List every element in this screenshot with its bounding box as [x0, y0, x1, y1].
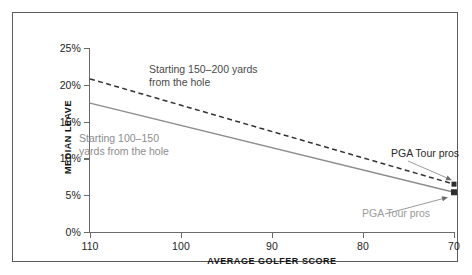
- x-tick-mark: [454, 232, 455, 238]
- x-tick-mark: [90, 232, 91, 238]
- y-tick-label: 20%: [60, 79, 81, 91]
- x-tick-mark: [272, 232, 273, 238]
- endpoint-marker-100-150: [451, 189, 457, 195]
- y-tick-label: 15%: [60, 116, 81, 128]
- callout-arrowhead-lower: [442, 196, 448, 201]
- x-tick-label: 110: [81, 240, 98, 252]
- x-axis-title: AVERAGE GOLFER SCORE: [90, 256, 454, 266]
- x-tick-label: 80: [357, 240, 369, 252]
- y-tick-label: 10%: [60, 152, 81, 164]
- annotation-100-150-yards: Starting 100–150 yards from the hole: [79, 132, 169, 158]
- annotation-pga-tour-pros-lower: PGA Tour pros: [362, 207, 430, 219]
- annotation-pga-tour-pros-upper: PGA Tour pros: [391, 147, 459, 159]
- callout-leader-upper: [408, 161, 447, 178]
- y-tick-label: 5%: [66, 189, 81, 201]
- x-tick-label: 90: [266, 240, 278, 252]
- chart-frame: MEDIAN LEAVE AVERAGE GOLFER SCORE 25% 20…: [12, 12, 458, 262]
- x-tick-label: 70: [448, 240, 460, 252]
- x-tick-mark: [363, 232, 364, 238]
- endpoint-marker-150-200: [452, 182, 457, 187]
- annotation-150-200-yards: Starting 150–200 yards from the hole: [149, 63, 258, 89]
- y-tick-label: 25%: [60, 42, 81, 54]
- x-tick-mark: [181, 232, 182, 238]
- chart-figure: MEDIAN LEAVE AVERAGE GOLFER SCORE 25% 20…: [0, 0, 472, 275]
- x-tick-label: 100: [172, 240, 190, 252]
- y-tick-label: 0%: [66, 226, 81, 238]
